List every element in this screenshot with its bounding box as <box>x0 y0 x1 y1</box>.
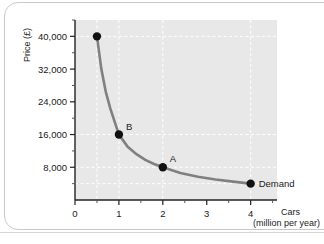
point-label-b: B <box>126 121 132 132</box>
demand-curve-chart: 8,00016,00024,00032,00040,000 01234 BADe… <box>0 0 324 244</box>
x-axis-title-line2: (million per year) <box>253 218 320 228</box>
y-tick-label: 40,000 <box>38 31 67 42</box>
x-tick-label: 3 <box>204 208 209 219</box>
point-label-a: A <box>170 153 177 164</box>
x-axis-title-line1: Cars <box>281 207 301 217</box>
plot-area-background <box>75 20 277 200</box>
screenshot-root: 8,00016,00024,00032,00040,000 01234 BADe… <box>0 0 324 244</box>
x-tick-label: 0 <box>72 208 77 219</box>
y-tick-label: 8,000 <box>43 162 67 173</box>
y-axis-title: Price (£) <box>22 28 32 62</box>
demand-curve-figure: 8,00016,00024,00032,00040,000 01234 BADe… <box>0 0 324 244</box>
y-tick-label: 32,000 <box>38 64 67 75</box>
y-tick-label: 16,000 <box>38 129 67 140</box>
y-tick-label: 24,000 <box>38 96 67 107</box>
x-axis-tick-labels: 01234 <box>72 208 253 219</box>
x-tick-label: 2 <box>160 208 165 219</box>
series-label-demand: Demand <box>259 178 295 189</box>
x-tick-label: 1 <box>116 208 121 219</box>
y-axis-tick-labels: 8,00016,00024,00032,00040,000 <box>38 31 67 173</box>
